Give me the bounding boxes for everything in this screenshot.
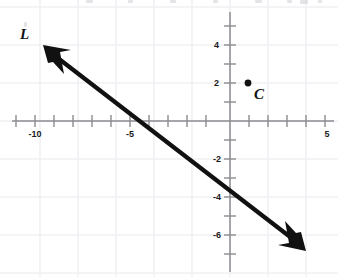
y-tick-label-pos2: 2 — [214, 78, 219, 88]
x-tick-label-neg5: -5 — [126, 129, 134, 139]
y-tick-label-neg2: -2 — [213, 154, 221, 164]
point-C-dot — [245, 80, 252, 87]
y-tick-label-neg6: -6 — [213, 230, 221, 240]
graph-canvas: -10 -5 5 4 2 -2 -4 -6 L C — [0, 0, 338, 277]
y-tick-label-neg4: -4 — [213, 192, 221, 202]
line-L-label: L — [19, 26, 29, 42]
point-C-label: C — [254, 86, 265, 102]
x-tick-label-pos5: 5 — [324, 129, 329, 139]
coordinate-plane-figure: -10 -5 5 4 2 -2 -4 -6 L C — [0, 0, 338, 277]
y-tick-label-pos4: 4 — [214, 40, 219, 50]
x-tick-label-neg10: -10 — [28, 129, 41, 139]
